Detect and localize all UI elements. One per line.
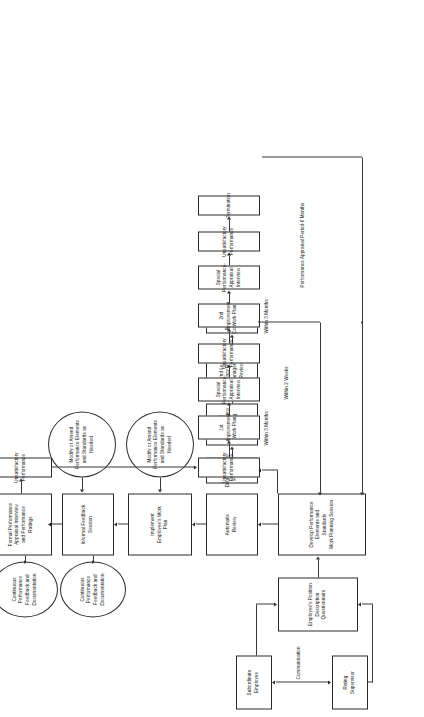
connector-develop-to-disagreements-1 xyxy=(262,469,278,470)
connector-develop-to-automatic-1 xyxy=(262,523,278,524)
connector-questionnaire-in-bottom xyxy=(362,603,373,604)
connector-communication xyxy=(276,681,328,682)
node-unsatisfactory-1: Unsatisfactory Performance xyxy=(0,457,52,477)
arrowhead-informal-in xyxy=(114,522,117,526)
arrowhead-implement-from-modify-2 xyxy=(158,489,162,492)
arrowhead-questionnaire-bottom xyxy=(358,602,361,606)
diagram-rotation-wrapper: RatingSupervisor SubordinateEmployee Com… xyxy=(0,0,424,717)
node-develop-performance: Develop PerformanceElements andStandards… xyxy=(278,493,366,555)
node-implement-work-plan: ImplementEmployee's WorkPlan xyxy=(128,493,192,555)
connector-interview2-to-unsat4 xyxy=(229,255,230,265)
label-communication: Communication xyxy=(296,646,301,679)
node-unsatisfactory-4: Unsatisfactory Performance xyxy=(198,231,260,251)
connector-unsat3-to-plan2 xyxy=(229,331,230,343)
arrowhead-unsatisfactory-1-in xyxy=(19,478,23,481)
node-continuous-feedback-1: ContinuousPerformanceFeedback andDocumen… xyxy=(0,561,58,617)
connector-automatic-to-implement xyxy=(196,523,206,524)
node-formal-appraisal: Formal PerformanceAppraisal Interviewand… xyxy=(0,493,52,555)
arrowhead-plan1-in xyxy=(227,440,231,443)
loop-within-2-weeks-v-right xyxy=(258,321,320,322)
connector-questionnaire-to-develop xyxy=(318,559,319,577)
flowchart-canvas: RatingSupervisor SubordinateEmployee Com… xyxy=(0,0,424,717)
arrowhead-formal-in xyxy=(48,522,51,526)
connector-unsatisfactory-1-down xyxy=(52,466,194,467)
node-automatic-review-1: AutomaticReview xyxy=(206,493,258,555)
arrowhead-interview2-in xyxy=(227,290,231,293)
connector-unsat2-to-plan1 xyxy=(229,443,230,457)
connector-modify-2-to-implement xyxy=(160,477,161,489)
connector-plan2-to-interview2 xyxy=(229,293,230,303)
node-unsatisfactory-3: Unsatisfactory Performance xyxy=(198,343,260,363)
connector-supervisor-drop xyxy=(368,681,373,682)
connector-unsat4-to-termination xyxy=(229,219,230,231)
connector-develop-right-stub-1 xyxy=(277,470,278,493)
connector-employee-to-questionnaire-h xyxy=(256,604,257,655)
label-appraisal-period: Performance Appraisal Period-6 Months xyxy=(300,202,305,287)
arrowhead-formal-from-modify-1 xyxy=(80,489,84,492)
label-within-3-months-1: Within 3 Months xyxy=(264,411,269,445)
arrowhead-interview1-in xyxy=(227,402,231,405)
loop-appraisal-period-v-right xyxy=(262,156,362,157)
node-improvement-plan-1: 1st ImprovementWork Plan xyxy=(198,415,260,439)
arrowhead-appraisal-period-return xyxy=(360,492,364,495)
arrowhead-first-level-1 xyxy=(230,446,234,449)
connector-informal-to-formal xyxy=(52,523,62,524)
arrowhead-unsat4-in xyxy=(227,252,231,255)
connector-modify-1-to-formal xyxy=(82,477,83,489)
node-informal-feedback: Informal FeedbackSession xyxy=(62,493,114,555)
arrowhead-communication-down xyxy=(328,680,331,684)
connector-interview1-to-unsat3 xyxy=(229,367,230,377)
node-subordinate-employee: SubordinateEmployee xyxy=(236,655,272,709)
loop-appraisal-period-h xyxy=(362,157,363,492)
connector-employee-to-questionnaire-v xyxy=(256,603,274,604)
node-improvement-plan-2: 2nd ImprovementWork Plan xyxy=(198,303,260,327)
arrowhead-within-2-weeks-return xyxy=(318,492,322,495)
node-special-interview-1: Special Performance-Appraisal Interview xyxy=(198,377,260,401)
arrowhead-develop-in xyxy=(316,556,320,559)
connector-implement-to-informal xyxy=(118,523,128,524)
arrowhead-termination-in xyxy=(227,216,231,219)
label-within-2-weeks: Within 2 Weeks xyxy=(284,366,289,399)
node-special-interview-2: Special Performance-Appraisal Interview xyxy=(198,265,260,289)
arrowhead-questionnaire-top xyxy=(274,602,277,606)
junction-continuous-2 xyxy=(92,560,95,563)
connector-plan1-to-interview1 xyxy=(229,405,230,415)
node-continuous-feedback-2: ContinuousPerformanceFeedback andDocumen… xyxy=(60,561,126,617)
node-rating-supervisor: RatingSupervisor xyxy=(332,655,368,709)
arrowhead-communication-up xyxy=(272,680,275,684)
arrowhead-plan2-in xyxy=(227,328,231,331)
node-termination: Termination xyxy=(198,195,260,215)
arrowhead-review-committee-1 xyxy=(230,334,234,337)
arrowhead-unsat3-in xyxy=(227,364,231,367)
junction-continuous-1 xyxy=(24,560,27,563)
arrowhead-implement-in xyxy=(192,522,195,526)
node-position-questionnaire: Employee's PositionDescriptionQuestionna… xyxy=(278,577,358,631)
arrowhead-unsatisfactory-2-in xyxy=(194,465,197,469)
connector-formal-to-unsatisfactory-1 xyxy=(21,481,22,493)
label-within-3-months-2: Within 3 Months xyxy=(264,299,269,333)
node-unsatisfactory-2: Unsatisfactory Performance xyxy=(198,457,260,477)
connector-supervisor-to-questionnaire-h xyxy=(372,604,373,682)
loop-within-2-weeks-h xyxy=(320,322,321,492)
arrowhead-automatic-1 xyxy=(258,522,261,526)
